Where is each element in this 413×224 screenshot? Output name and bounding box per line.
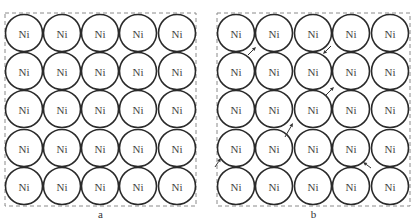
- atom-label: Ni: [269, 66, 280, 78]
- ni-atom: Ni: [295, 91, 332, 128]
- ni-atom: Ni: [82, 15, 119, 52]
- panel-b: NiNiNiNiNiNiNiNiNiNiNiNiNiNiNiNiNiNiNiNi…: [215, 13, 410, 220]
- atom-label: Ni: [385, 66, 396, 78]
- atom-label: Ni: [19, 66, 30, 78]
- ni-atom: Ni: [333, 15, 370, 52]
- atom-label: Ni: [172, 66, 183, 78]
- ni-atom: Ni: [6, 168, 43, 205]
- atom-label: Ni: [133, 104, 144, 116]
- ni-atom: Ni: [256, 53, 293, 90]
- atom-label: Ni: [231, 104, 242, 116]
- ni-atom: Ni: [295, 15, 332, 52]
- ni-atom: Ni: [372, 130, 409, 167]
- ni-atom: Ni: [256, 91, 293, 128]
- atom-label: Ni: [231, 143, 242, 155]
- ni-atom: Ni: [218, 53, 255, 90]
- ni-atom: Ni: [120, 168, 157, 205]
- atom-label: Ni: [95, 143, 106, 155]
- atom-label: Ni: [385, 28, 396, 40]
- atom-label: Ni: [172, 181, 183, 193]
- atom-label: Ni: [269, 143, 280, 155]
- ni-atom: Ni: [218, 130, 255, 167]
- ni-atom: Ni: [6, 91, 43, 128]
- atom-label: Ni: [308, 181, 319, 193]
- ni-atom: Ni: [159, 53, 196, 90]
- atom-label: Ni: [231, 181, 242, 193]
- ni-atom: Ni: [6, 130, 43, 167]
- panel-label: b: [311, 208, 317, 220]
- atom-label: Ni: [308, 104, 319, 116]
- atom-label: Ni: [308, 143, 319, 155]
- ni-atom: Ni: [333, 91, 370, 128]
- ni-atom: Ni: [256, 168, 293, 205]
- atom-label: Ni: [385, 143, 396, 155]
- atom-label: Ni: [346, 104, 357, 116]
- ni-atom: Ni: [82, 91, 119, 128]
- panel-label: a: [98, 208, 103, 220]
- atom-label: Ni: [133, 143, 144, 155]
- ni-atom: Ni: [372, 91, 409, 128]
- ni-atom: Ni: [295, 130, 332, 167]
- atom-label: Ni: [19, 143, 30, 155]
- ni-atom: Ni: [120, 91, 157, 128]
- atom-label: Ni: [57, 104, 68, 116]
- atom-label: Ni: [385, 104, 396, 116]
- ni-atom: Ni: [333, 53, 370, 90]
- atom-label: Ni: [231, 66, 242, 78]
- ni-atom: Ni: [256, 15, 293, 52]
- migration-arrow-icon: [363, 162, 371, 168]
- ni-atom: Ni: [44, 91, 81, 128]
- atom-label: Ni: [57, 143, 68, 155]
- atom-label: Ni: [231, 28, 242, 40]
- ni-atom: Ni: [218, 15, 255, 52]
- panel-a: NiNiNiNiNiNiNiNiNiNiNiNiNiNiNiNiNiNiNiNi…: [5, 13, 196, 220]
- migration-arrow-icon: [248, 47, 256, 55]
- atom-label: Ni: [269, 28, 280, 40]
- atom-label: Ni: [172, 104, 183, 116]
- atom-label: Ni: [19, 181, 30, 193]
- ni-atom: Ni: [159, 15, 196, 52]
- ni-atom: Ni: [44, 168, 81, 205]
- atom-label: Ni: [385, 181, 396, 193]
- ni-atom: Ni: [82, 130, 119, 167]
- ni-atom: Ni: [159, 168, 196, 205]
- ni-atom: Ni: [120, 53, 157, 90]
- ni-lattice-diagram: NiNiNiNiNiNiNiNiNiNiNiNiNiNiNiNiNiNiNiNi…: [0, 0, 413, 224]
- ni-atom: Ni: [82, 53, 119, 90]
- atom-label: Ni: [95, 104, 106, 116]
- ni-atom: Ni: [295, 53, 332, 90]
- atom-label: Ni: [95, 181, 106, 193]
- atom-label: Ni: [308, 28, 319, 40]
- atom-label: Ni: [172, 143, 183, 155]
- ni-atom: Ni: [159, 130, 196, 167]
- ni-atom: Ni: [218, 91, 255, 128]
- ni-atom: Ni: [6, 15, 43, 52]
- ni-atom: Ni: [120, 130, 157, 167]
- atom-label: Ni: [19, 104, 30, 116]
- atom-label: Ni: [19, 28, 30, 40]
- atom-label: Ni: [57, 28, 68, 40]
- ni-atom: Ni: [120, 15, 157, 52]
- ni-atom: Ni: [44, 130, 81, 167]
- ni-atom: Ni: [295, 168, 332, 205]
- ni-atom: Ni: [333, 168, 370, 205]
- atom-label: Ni: [133, 66, 144, 78]
- ni-atom: Ni: [159, 91, 196, 128]
- atom-label: Ni: [95, 28, 106, 40]
- ni-atom: Ni: [44, 15, 81, 52]
- atom-label: Ni: [133, 28, 144, 40]
- atom-label: Ni: [308, 66, 319, 78]
- migration-arrow-icon: [215, 158, 221, 167]
- atom-label: Ni: [346, 28, 357, 40]
- atom-label: Ni: [172, 28, 183, 40]
- atom-label: Ni: [269, 104, 280, 116]
- atom-label: Ni: [346, 143, 357, 155]
- atom-label: Ni: [346, 181, 357, 193]
- ni-atom: Ni: [82, 168, 119, 205]
- ni-atom: Ni: [6, 53, 43, 90]
- atom-label: Ni: [57, 66, 68, 78]
- atom-label: Ni: [346, 66, 357, 78]
- atom-label: Ni: [95, 66, 106, 78]
- migration-arrow-icon: [326, 87, 334, 95]
- ni-atom: Ni: [44, 53, 81, 90]
